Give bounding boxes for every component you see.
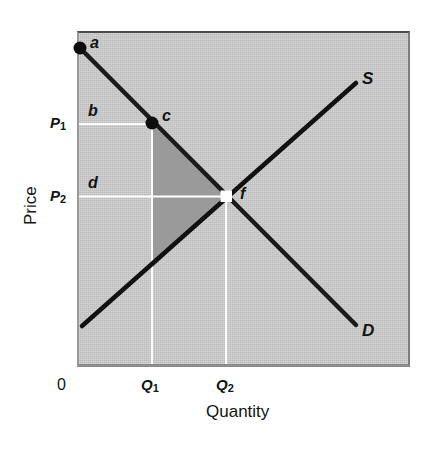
supply-demand-chart: a c f b d S D P1 P2 0 Q1 Q2 Price Quanti… <box>0 0 427 449</box>
y-tick-p2-sub: 2 <box>60 193 66 205</box>
area-d-label: d <box>88 175 98 191</box>
y-tick-p2: P2 <box>50 188 66 205</box>
point-c-label: c <box>162 108 171 124</box>
supply-curve-label: S <box>362 70 373 87</box>
x-axis-title: Quantity <box>206 403 269 420</box>
demand-curve-label: D <box>362 322 374 339</box>
point-f-label: f <box>240 186 245 202</box>
y-axis-title: Price <box>22 186 39 225</box>
supply-curve <box>82 83 356 326</box>
x-tick-q1: Q1 <box>141 377 159 394</box>
point-a-marker <box>74 42 87 55</box>
x-tick-origin: 0 <box>57 377 66 393</box>
point-a-label: a <box>90 35 99 51</box>
point-f-marker <box>221 191 232 202</box>
y-tick-p1-main: P <box>50 114 60 131</box>
y-tick-p1-sub: 1 <box>60 120 66 132</box>
point-c-marker <box>146 117 159 130</box>
x-tick-q2: Q2 <box>216 377 234 394</box>
x-tick-q1-sub: 1 <box>153 382 159 394</box>
x-tick-q1-main: Q <box>141 376 153 393</box>
x-tick-q2-sub: 2 <box>228 382 234 394</box>
area-b-label: b <box>88 103 98 119</box>
y-tick-p2-main: P <box>50 187 60 204</box>
x-tick-q2-main: Q <box>216 376 228 393</box>
y-tick-p1: P1 <box>50 115 66 132</box>
demand-curve <box>80 48 356 325</box>
